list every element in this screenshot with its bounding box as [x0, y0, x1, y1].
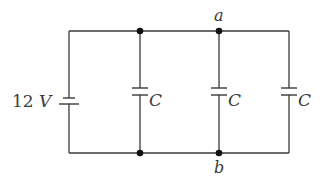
node-b-label: b: [214, 158, 224, 177]
capacitor-1: [132, 88, 148, 95]
circuit-diagram: 12 V C C C a b: [0, 0, 328, 187]
battery-symbol: [59, 98, 79, 104]
capacitor-1-label: C: [149, 90, 162, 110]
capacitor-2-label: C: [228, 90, 241, 110]
node-a-label: a: [214, 6, 224, 25]
junction-dot: [137, 28, 144, 35]
node-b-dot: [216, 150, 223, 157]
battery-label: 12 V: [12, 91, 53, 111]
capacitor-3: [281, 88, 297, 95]
node-a-dot: [216, 28, 223, 35]
capacitor-2: [211, 88, 227, 95]
wires: [69, 31, 289, 153]
capacitor-3-label: C: [298, 90, 311, 110]
junction-dot: [137, 150, 144, 157]
